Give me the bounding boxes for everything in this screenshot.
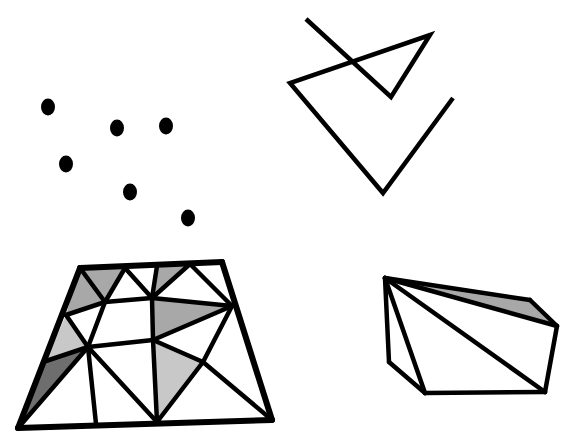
point bbox=[159, 118, 173, 135]
point-set bbox=[41, 99, 195, 227]
point bbox=[123, 184, 137, 201]
edge bbox=[545, 326, 557, 392]
point bbox=[41, 99, 55, 116]
point bbox=[181, 210, 195, 227]
point bbox=[110, 120, 124, 137]
diagram-canvas bbox=[0, 0, 570, 447]
edge bbox=[80, 262, 222, 268]
edge bbox=[18, 420, 272, 428]
edge bbox=[105, 298, 152, 302]
chain-path bbox=[290, 19, 453, 193]
edge bbox=[425, 392, 545, 393]
convex-polytope bbox=[385, 278, 557, 393]
edge bbox=[125, 268, 152, 298]
point bbox=[59, 156, 73, 173]
polygonal-chain bbox=[290, 19, 453, 193]
edge bbox=[88, 340, 153, 347]
polygon-triangulation bbox=[18, 262, 272, 428]
edge bbox=[88, 347, 157, 422]
edge bbox=[88, 347, 96, 424]
edge bbox=[152, 298, 153, 340]
